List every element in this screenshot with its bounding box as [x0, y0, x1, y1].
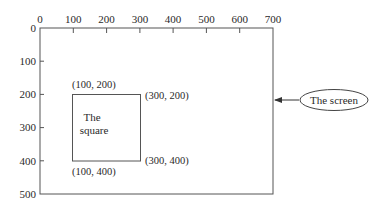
y-axis: [40, 61, 44, 161]
y-tick-label: 0: [31, 22, 37, 34]
coordinate-diagram: 0 100 200 300 400 500 600 700 0 100 200 …: [0, 0, 382, 213]
corner-label-bottom-right: (300, 400): [145, 155, 189, 167]
corner-label-top-left: (100, 200): [72, 79, 116, 91]
x-tick-label: 600: [231, 13, 248, 25]
y-tick-label: 500: [20, 188, 37, 200]
y-tick-label: 400: [20, 155, 37, 167]
x-tick-label: 200: [98, 13, 115, 25]
x-tick-label: 700: [265, 13, 282, 25]
square-label-line1: The: [83, 111, 100, 123]
x-tick-label: 500: [198, 13, 215, 25]
y-tick-label: 200: [20, 88, 37, 100]
y-tick-label: 300: [20, 121, 37, 133]
x-tick-label: 0: [37, 13, 43, 25]
square-label-line2: square: [80, 124, 109, 136]
corner-label-top-right: (300, 200): [145, 90, 189, 102]
x-tick-label: 300: [132, 13, 149, 25]
y-tick-label: 100: [20, 55, 37, 67]
screen-label: The screen: [310, 94, 358, 106]
x-axis: [73, 28, 239, 33]
corner-label-bottom-left: (100, 400): [72, 166, 116, 178]
x-tick-label: 400: [165, 13, 182, 25]
x-tick-label: 100: [65, 13, 82, 25]
